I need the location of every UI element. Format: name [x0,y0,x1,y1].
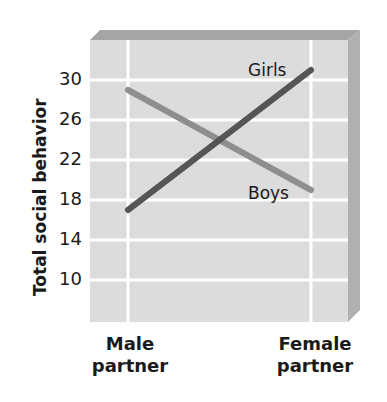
x-tick-label: Femalepartner [265,333,365,377]
plot-top-bevel [90,30,360,40]
y-tick-label: 30 [42,68,82,89]
x-tick-label: Malepartner [80,333,180,377]
chart: Total social behavior 101418222630 Malep… [0,0,387,402]
y-tick-label: 18 [42,188,82,209]
y-tick-label: 14 [42,228,82,249]
series-label-boys: Boys [248,183,289,203]
series-label-girls: Girls [248,60,286,80]
y-tick-label: 10 [42,268,82,289]
y-tick-label: 22 [42,148,82,169]
y-tick-label: 26 [42,108,82,129]
plot-right-bevel [348,30,360,322]
